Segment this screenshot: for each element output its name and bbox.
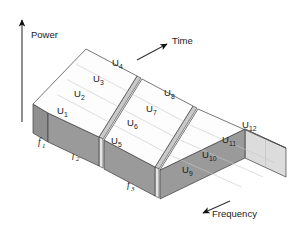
cell-label-u11: U	[222, 134, 229, 145]
cell-sub-u10: 10	[209, 155, 217, 162]
gap-2-3-front	[155, 167, 159, 198]
cell-label-u4: U	[112, 57, 119, 68]
cell-sub-u12: 12	[249, 125, 257, 132]
cell-label-u7: U	[146, 103, 153, 114]
cell-sub-u9: 9	[189, 170, 193, 177]
cell-label-u5: U	[111, 135, 118, 146]
frequency-axis-label: Frequency	[212, 208, 257, 219]
freq-label-f3-sub: 3	[130, 185, 135, 192]
cell-sub-u2: 2	[81, 94, 85, 101]
cell-label-u9: U	[182, 164, 189, 175]
cell-sub-u5: 5	[118, 141, 122, 148]
cell-sub-u1: 1	[64, 111, 68, 118]
cell-sub-u11: 11	[229, 140, 236, 147]
cell-label-u3: U	[93, 73, 100, 84]
cell-sub-u7: 7	[153, 109, 157, 116]
resource-block-diagram: U 9 U 10 U 11 U 12 f 3	[0, 0, 301, 231]
cell-label-u6: U	[127, 117, 134, 128]
cell-label-u12: U	[242, 119, 249, 130]
cell-sub-u4: 4	[119, 63, 123, 70]
gap-1-2-front	[99, 137, 103, 168]
cell-label-u10: U	[202, 149, 209, 160]
time-axis-label: Time	[172, 35, 193, 46]
cell-sub-u6: 6	[134, 123, 138, 130]
cell-sub-u3: 3	[100, 79, 104, 86]
freq-label-f1-sub: 1	[42, 142, 45, 149]
cell-label-u2: U	[74, 88, 81, 99]
cell-label-u8: U	[164, 87, 171, 98]
power-axis-label: Power	[31, 29, 58, 40]
cell-label-u1: U	[57, 105, 64, 116]
cell-sub-u8: 8	[171, 93, 175, 100]
